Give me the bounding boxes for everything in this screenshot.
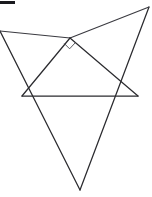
geometry-canvas bbox=[0, 0, 152, 197]
segment-apex-to-base-right bbox=[70, 38, 138, 96]
segment-left-edge-to-bottom bbox=[0, 31, 80, 190]
segment-apex-to-left-edge bbox=[0, 31, 70, 38]
geometry-figure bbox=[0, 0, 152, 197]
segment-apex-to-base-left bbox=[22, 38, 70, 96]
segment-top-right-to-bottom bbox=[80, 7, 149, 190]
segment-apex-to-top-right bbox=[70, 7, 149, 38]
